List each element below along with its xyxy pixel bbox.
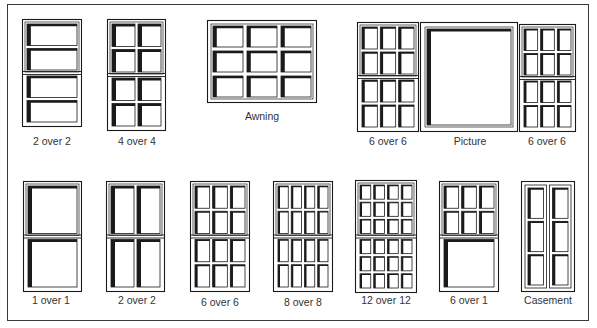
window-label-bottom-1over1: 1 over 1 (32, 294, 70, 306)
window-top-2over2 (22, 19, 82, 127)
window-top-6over6-left (357, 22, 419, 132)
window-label-picture: Picture (454, 135, 487, 147)
window-drawing (22, 19, 82, 127)
window-drawing (107, 19, 166, 131)
window-bottom-2over2 (106, 181, 165, 292)
window-bottom-6over1 (439, 181, 499, 292)
window-label-bottom-8over8: 8 over 8 (284, 296, 322, 308)
window-picture (420, 22, 518, 132)
window-top-4over4 (107, 19, 166, 131)
window-drawing (190, 181, 250, 292)
window-label-bottom-6over1: 6 over 1 (450, 294, 488, 306)
window-label-top-6over6-left: 6 over 6 (369, 135, 407, 147)
window-awning (207, 20, 317, 103)
window-drawing (106, 181, 165, 292)
window-label-top-4over4: 4 over 4 (118, 135, 156, 147)
window-casement (521, 181, 575, 292)
window-label-bottom-2over2: 2 over 2 (118, 294, 156, 306)
window-drawing (521, 181, 575, 292)
window-drawing (357, 22, 419, 132)
window-top-6over6-right (519, 24, 576, 132)
window-label-top-2over2: 2 over 2 (33, 135, 71, 147)
window-bottom-6over6 (190, 181, 250, 292)
window-label-bottom-12over12: 12 over 12 (361, 294, 411, 306)
window-label-top-6over6-right: 6 over 6 (528, 135, 566, 147)
window-label-casement: Casement (524, 294, 572, 306)
window-drawing (207, 20, 317, 103)
window-drawing (519, 24, 576, 132)
window-drawing (273, 181, 333, 292)
window-label-awning: Awning (245, 110, 279, 122)
window-drawing (439, 181, 499, 292)
window-drawing (355, 180, 417, 293)
window-label-bottom-6over6: 6 over 6 (201, 296, 239, 308)
window-drawing (420, 22, 518, 132)
window-bottom-12over12 (355, 180, 417, 293)
window-drawing (23, 181, 82, 292)
window-bottom-1over1 (23, 181, 82, 292)
window-bottom-8over8 (273, 181, 333, 292)
